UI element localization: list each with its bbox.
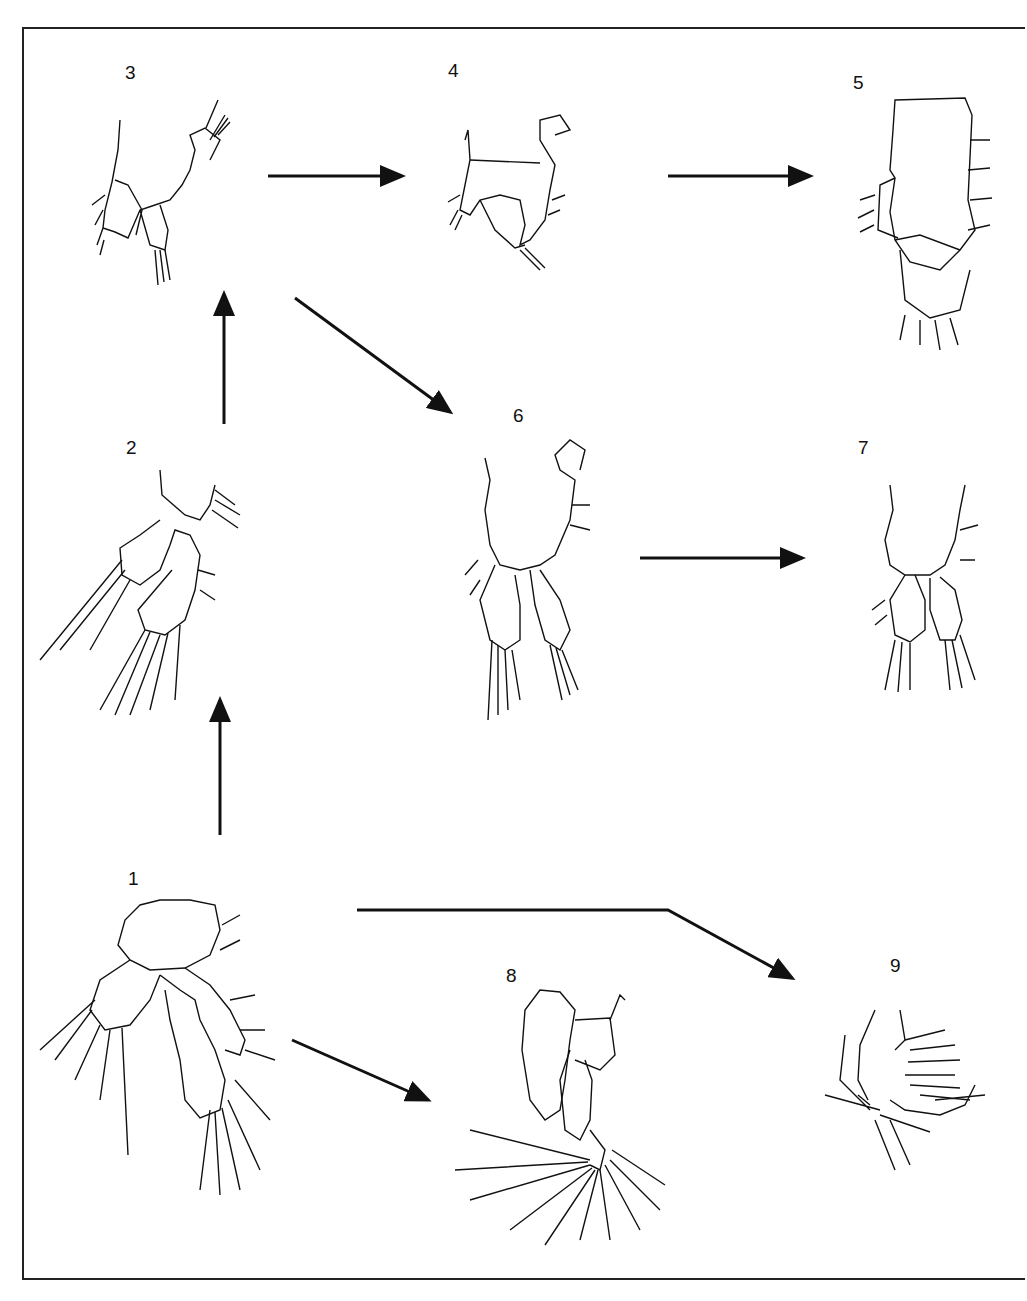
- appendage-5: [858, 98, 992, 350]
- diagram-drawing: [0, 0, 1027, 1301]
- appendage-9: [825, 1010, 985, 1170]
- arrow-1-to-9: [357, 910, 792, 978]
- appendage-1: [40, 900, 275, 1195]
- appendage-7: [872, 485, 978, 692]
- appendage-6: [465, 440, 590, 720]
- appendage-3: [92, 100, 230, 285]
- appendage-4: [448, 115, 570, 270]
- appendage-drawings: [40, 98, 992, 1245]
- appendage-8: [455, 990, 665, 1245]
- appendage-2: [40, 470, 240, 715]
- arrows: [220, 176, 810, 1100]
- arrow-1-to-8: [292, 1040, 428, 1100]
- arrow-3-to-6: [295, 298, 450, 412]
